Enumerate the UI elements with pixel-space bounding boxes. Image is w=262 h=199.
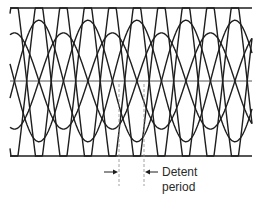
phase-waveforms xyxy=(10,8,252,156)
detent-period-label-line2: period xyxy=(162,180,195,194)
detent-period-label-line1: Detent xyxy=(162,165,197,179)
waveform-diagram xyxy=(0,0,262,199)
detent-arrow-left-icon xyxy=(104,170,118,175)
detent-arrow-right-icon xyxy=(145,170,158,175)
